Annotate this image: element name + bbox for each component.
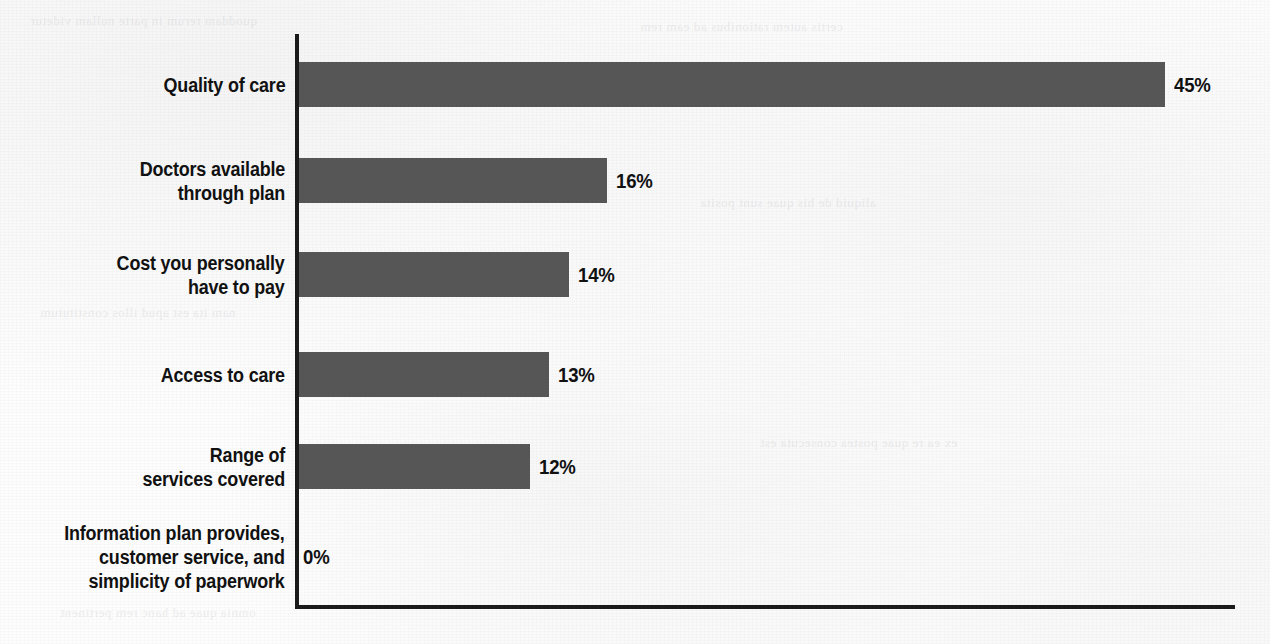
scan-bleed-text-1: quoddam rerum in parte nullam videtur: [30, 8, 257, 34]
bar: [299, 352, 549, 397]
scan-bleed-text-5: ex ea re quae postea consecuta est: [760, 430, 957, 456]
bar-value-label: 0%: [303, 546, 330, 568]
bar: [299, 62, 1165, 107]
scan-bleed-text-2: certis autem rationibus ad eam rem: [640, 14, 843, 40]
scan-bleed-text-6: omnia quae ad hanc rem pertinent: [60, 600, 256, 626]
bar-chart-figure: quoddam rerum in parte nullam videtur ce…: [0, 0, 1270, 644]
scan-bleed-text-4: nam ita est apud illos constitutum: [40, 300, 236, 326]
bar-value-label: 12%: [539, 456, 576, 478]
bar: [299, 158, 607, 203]
bar: [299, 444, 530, 489]
bar-category-label: Cost you personally have to pay: [117, 251, 285, 299]
scan-bleed-text-3: aliquid de his quae sunt posita: [700, 190, 876, 216]
bar-category-label: Access to care: [161, 363, 285, 387]
bar-category-label: Doctors available through plan: [140, 157, 285, 205]
bar-category-label: Quality of care: [163, 73, 285, 97]
bar-value-label: 14%: [578, 264, 615, 286]
bar-category-label: Information plan provides, customer serv…: [65, 521, 285, 593]
bar-value-label: 13%: [558, 364, 595, 386]
bar-value-label: 16%: [616, 170, 653, 192]
bar: [299, 252, 569, 297]
x-axis-line: [295, 605, 1235, 609]
bar-value-label: 45%: [1174, 74, 1211, 96]
y-axis-line: [295, 34, 299, 609]
bar-category-label: Range of services covered: [142, 443, 285, 491]
